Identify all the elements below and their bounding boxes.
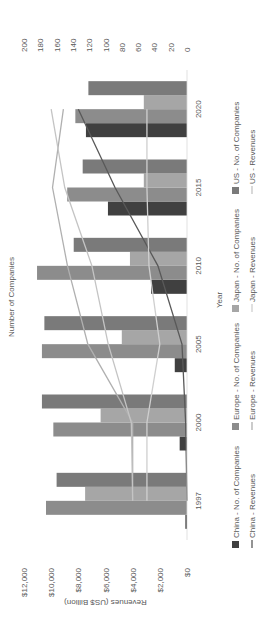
y2-tick-label: 20 [167, 43, 176, 52]
bar-europe-2010 [37, 266, 187, 280]
bar-japan-1997 [85, 487, 187, 501]
y-tick-label: $0 [183, 567, 192, 576]
y2-tick-label: 140 [69, 38, 78, 52]
bar-japan-2005 [122, 330, 187, 344]
y-tick-label: $2,000 [156, 567, 165, 592]
legend-swatch-bar [232, 187, 239, 194]
legend-label: Europe - Revenues [248, 351, 257, 420]
legend-swatch-bar [232, 305, 239, 312]
x-tick-label: 2000 [194, 413, 203, 431]
combo-chart: 199720002005201020152020 $0$2,000$4,000$… [0, 0, 272, 625]
y-axis-title: Revenues (US$ Billion) [64, 598, 147, 607]
y2-tick-label: 40 [150, 43, 159, 52]
bar-us-2015 [83, 160, 187, 174]
legend: China - No. of CompaniesEurope - No. of … [232, 102, 257, 548]
y-axis-companies: 020406080100120140160180200 [20, 38, 192, 52]
legend-label: China - No. of Companies [232, 446, 241, 538]
x-axis-title: Year [215, 292, 224, 309]
x-tick-label: 2005 [194, 335, 203, 353]
legend-swatch-bar [232, 423, 239, 430]
y2-tick-label: 160 [53, 38, 62, 52]
bar-us-2005 [44, 316, 187, 330]
bar-europe-2020 [75, 109, 187, 123]
y-tick-label: $6,000 [102, 567, 111, 592]
bar-us-2010 [74, 238, 187, 252]
bar-china-2020 [86, 123, 187, 137]
legend-label: Japan - No. of Companies [232, 209, 241, 302]
y-tick-label: $4,000 [129, 567, 138, 592]
y2-axis-title: Number of Companies [7, 257, 16, 337]
x-tick-label: 1997 [194, 491, 203, 509]
bar-europe-2015 [67, 188, 187, 202]
bar-us-2020 [88, 81, 187, 95]
y2-tick-label: 0 [183, 47, 192, 52]
x-tick-label: 2010 [194, 256, 203, 274]
legend-swatch-bar [232, 541, 239, 548]
bar-china-2005 [175, 358, 187, 372]
y-axis-revenues: $0$2,000$4,000$6,000$8,000$10,000$12,000 [20, 567, 192, 596]
bar-japan-2010 [130, 252, 187, 266]
legend-label: Japan - Revenues [248, 237, 257, 302]
y2-tick-label: 60 [134, 43, 143, 52]
bar-europe-1997 [46, 501, 187, 515]
y2-tick-label: 120 [85, 38, 94, 52]
bar-europe-2000 [53, 423, 187, 437]
y2-tick-label: 80 [118, 43, 127, 52]
x-axis: 199720002005201020152020 [187, 70, 203, 540]
legend-label: US - No. of Companies [232, 102, 241, 184]
bar-japan-2015 [144, 174, 187, 188]
x-tick-label: 2015 [194, 178, 203, 196]
y2-tick-label: 180 [36, 38, 45, 52]
y2-tick-label: 100 [102, 38, 111, 52]
bar-europe-2005 [42, 344, 187, 358]
bar-china-2010 [151, 280, 187, 294]
y-tick-label: $10,000 [47, 567, 56, 596]
legend-label: China - Revenues [248, 474, 257, 538]
legend-label: US - Revenues [248, 130, 257, 184]
bar-us-2000 [42, 395, 187, 409]
bar-us-1997 [57, 473, 187, 487]
chart-container: 199720002005201020152020 $0$2,000$4,000$… [0, 0, 272, 625]
bar-japan-2020 [144, 95, 187, 109]
y-tick-label: $12,000 [20, 567, 29, 596]
y-tick-label: $8,000 [74, 567, 83, 592]
y2-tick-label: 200 [20, 38, 29, 52]
x-tick-label: 2020 [194, 100, 203, 118]
bar-japan-2000 [101, 409, 187, 423]
legend-label: Europe - No. of Companies [232, 323, 241, 420]
bar-series-group [37, 81, 187, 529]
rotated-chart-group: 199720002005201020152020 $0$2,000$4,000$… [7, 38, 257, 607]
